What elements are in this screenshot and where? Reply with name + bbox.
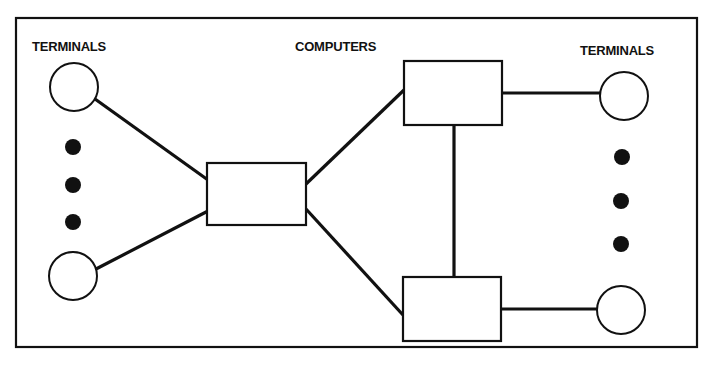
right-terminal-n — [597, 286, 645, 334]
left-terminal-1 — [50, 63, 98, 111]
computer-top-right — [404, 61, 502, 125]
left-terminal-n — [49, 252, 97, 300]
edge-left-terminal-n-to-center — [96, 211, 208, 269]
connections — [95, 90, 600, 315]
edge-center-to-bottom-right — [306, 209, 403, 315]
computer-center — [207, 163, 306, 225]
right-ellipsis-dot-3 — [613, 236, 629, 252]
computers-label: COMPUTERS — [295, 39, 377, 54]
network-diagram: TERMINALS COMPUTERS TERMINALS — [0, 0, 714, 365]
right-terminals-label: TERMINALS — [580, 43, 655, 58]
right-ellipsis-dot-1 — [614, 149, 630, 165]
left-ellipsis-dot-1 — [65, 139, 81, 155]
left-ellipsis-dot-2 — [65, 177, 81, 193]
diagram-frame — [16, 18, 697, 347]
right-ellipsis-dot-2 — [613, 193, 629, 209]
edge-left-terminal-1-to-center — [95, 99, 208, 180]
right-terminal-1 — [600, 72, 648, 120]
edge-center-to-top-right — [306, 90, 404, 184]
left-terminals-label: TERMINALS — [32, 39, 107, 54]
left-ellipsis-dot-3 — [65, 214, 81, 230]
computer-bottom-right — [403, 277, 501, 341]
